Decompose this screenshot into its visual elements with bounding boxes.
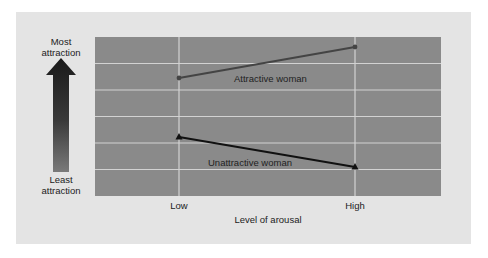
x-tick-low: Low: [164, 200, 194, 211]
most-line1: Most: [51, 36, 72, 47]
most-attraction-label: Most attraction: [36, 36, 86, 58]
series-label-unattractive: Unattractive woman: [208, 157, 292, 168]
least-line1: Least: [49, 174, 72, 185]
least-line2: attraction: [41, 185, 80, 196]
least-attraction-label: Least attraction: [36, 174, 86, 196]
x-axis-title: Level of arousal: [218, 214, 318, 225]
x-tick-high: High: [340, 200, 370, 211]
most-line2: attraction: [41, 47, 80, 58]
attraction-arrow-icon: [46, 58, 76, 172]
series-label-attractive: Attractive woman: [234, 73, 307, 84]
